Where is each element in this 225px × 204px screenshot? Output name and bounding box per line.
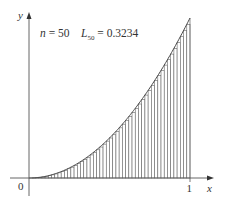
riemann-bar [126,120,129,178]
riemann-bar [100,147,103,178]
riemann-bar [71,167,74,178]
riemann-bar [132,112,135,178]
riemann-bar [151,86,154,178]
riemann-bar [106,141,109,178]
riemann-bar [148,90,151,178]
riemann-bar [187,24,190,178]
riemann-bar [113,135,116,178]
riemann-bar [84,160,87,179]
riemann-bar [90,155,93,178]
y-axis-label: y [17,9,23,21]
riemann-bars [32,18,190,178]
riemann-bar [171,54,174,178]
riemann-bar [129,117,132,179]
riemann-bar [116,131,119,178]
origin-label: 0 [18,180,24,192]
riemann-bar [184,31,187,178]
riemann-bar [167,60,170,178]
riemann-bar [142,100,145,178]
riemann-bar [164,65,167,178]
annotation-n: n = 50 [40,27,70,39]
riemann-bar [119,128,122,178]
riemann-bar [174,48,177,178]
riemann-bar [145,95,148,178]
riemann-bar [135,108,138,178]
x-axis-label: x [206,182,212,194]
riemann-bar [87,157,90,178]
riemann-bar [52,175,55,178]
x-tick-label-1: 1 [187,182,193,194]
riemann-bar [180,37,183,178]
riemann-bar [155,81,158,178]
riemann-bar [77,164,80,178]
riemann-bar [103,144,106,178]
x-axis-arrow-icon [207,176,214,181]
annotation-sum: L50 = 0.3234 [80,27,139,42]
riemann-bar [74,165,77,178]
y-axis-arrow-icon [27,12,32,19]
riemann-bar [177,43,180,178]
riemann-bar [81,162,84,178]
riemann-bar [161,70,164,178]
riemann-sum-diagram: y x 0 1 n = 50 L50 = 0.3234 [0,0,225,204]
riemann-bar [158,76,161,178]
riemann-bar [68,169,71,178]
riemann-bar [110,138,113,178]
riemann-bar [97,150,100,178]
riemann-bar [93,152,96,178]
riemann-bar [64,170,67,178]
riemann-bar [58,173,61,178]
riemann-bar [55,174,58,178]
riemann-bar [138,104,141,178]
riemann-bar [122,124,125,178]
riemann-bar [61,172,64,178]
